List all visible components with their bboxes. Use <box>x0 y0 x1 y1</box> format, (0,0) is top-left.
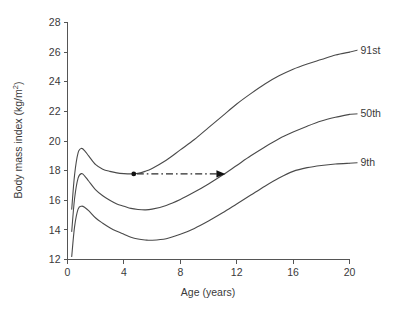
y-tick-label: 28 <box>49 16 61 28</box>
annotation-start-dot <box>131 171 136 176</box>
axes-group <box>68 23 350 260</box>
y-axis-ticks: 121416182022242628 <box>49 16 68 265</box>
x-tick-label: 0 <box>65 266 71 278</box>
curve-label-50th: 50th <box>361 107 382 119</box>
y-axis-title-tail: ) <box>12 82 24 86</box>
x-tick-label: 16 <box>287 266 299 278</box>
x-tick-label: 8 <box>177 266 183 278</box>
y-tick-label: 14 <box>49 224 61 236</box>
leader-line-91st <box>350 50 358 52</box>
y-tick-label: 22 <box>49 105 61 117</box>
bmi-centile-chart: 121416182022242628 048121620 91st50th9th… <box>0 0 394 312</box>
y-axis-title-base: Body mass index (kg/m <box>12 89 24 198</box>
x-tick-label: 4 <box>121 266 127 278</box>
y-tick-label: 26 <box>49 46 61 58</box>
y-tick-label: 16 <box>49 194 61 206</box>
centile-curve-91st <box>72 52 350 209</box>
curve-label-leaders <box>350 50 358 163</box>
y-tick-label: 18 <box>49 164 61 176</box>
curve-labels: 91st50th9th <box>361 44 382 169</box>
centile-curves <box>72 52 350 256</box>
x-axis-ticks: 048121620 <box>65 260 356 278</box>
y-tick-label: 20 <box>49 135 61 147</box>
centile-curve-50th <box>72 114 350 231</box>
x-tick-label: 12 <box>231 266 243 278</box>
curve-label-9th: 9th <box>361 156 376 168</box>
y-axis-title: Body mass index (kg/m2) <box>11 82 24 199</box>
y-tick-label: 12 <box>49 253 61 265</box>
x-tick-label: 20 <box>344 266 356 278</box>
x-axis-title: Age (years) <box>181 286 235 298</box>
curve-label-91st: 91st <box>361 44 381 56</box>
chart-canvas: 121416182022242628 048121620 91st50th9th… <box>0 0 394 312</box>
y-tick-label: 24 <box>49 75 61 87</box>
centile-curve-9th <box>72 163 350 256</box>
